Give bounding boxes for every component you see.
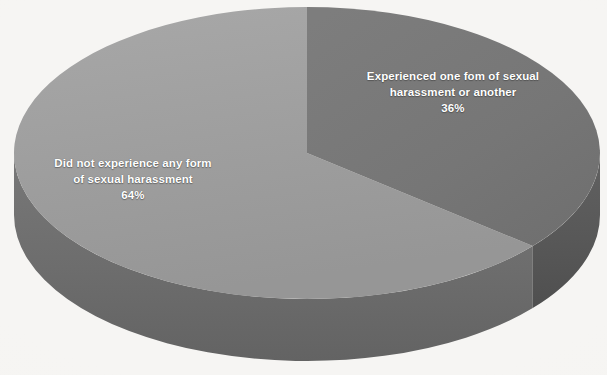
slice-label-not-experienced-percent: 64%	[18, 187, 248, 203]
slice-label-experienced: Experienced one fom of sexual harassment…	[348, 68, 558, 116]
pie-chart-figure: Experienced one fom of sexual harassment…	[0, 0, 607, 375]
slice-label-not-experienced-line1: Did not experience any form	[54, 157, 211, 169]
pie-top-faces	[14, 7, 600, 299]
slice-label-not-experienced: Did not experience any form of sexual ha…	[18, 155, 248, 203]
chart-plot-area: Experienced one fom of sexual harassment…	[0, 0, 607, 375]
slice-label-experienced-line2: harassment or another	[390, 86, 517, 98]
slice-label-not-experienced-line2: of sexual harassment	[73, 173, 193, 185]
slice-label-experienced-percent: 36%	[348, 100, 558, 116]
slice-label-experienced-line1: Experienced one fom of sexual	[367, 70, 539, 82]
